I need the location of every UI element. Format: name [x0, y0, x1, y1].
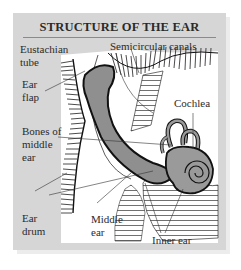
- ear-diagram-panel: STRUCTURE OF THE EAR Eustachian tube Sem…: [13, 13, 226, 250]
- label-ear-flap: Ear flap: [22, 78, 39, 104]
- label-semicircular-canals: Semicircular canals: [110, 40, 196, 53]
- label-bones-of-middle-ear: Bones of middle ear: [22, 125, 61, 164]
- diagram-title: STRUCTURE OF THE EAR: [13, 20, 226, 35]
- label-ear-drum: Ear drum: [22, 212, 45, 238]
- label-eustachian-tube: Eustachian tube: [20, 43, 68, 69]
- title-divider: [23, 37, 216, 38]
- label-inner-ear: Inner ear: [152, 234, 191, 247]
- label-middle-ear: Middle ear: [91, 213, 123, 239]
- label-cochlea: Cochlea: [174, 97, 210, 110]
